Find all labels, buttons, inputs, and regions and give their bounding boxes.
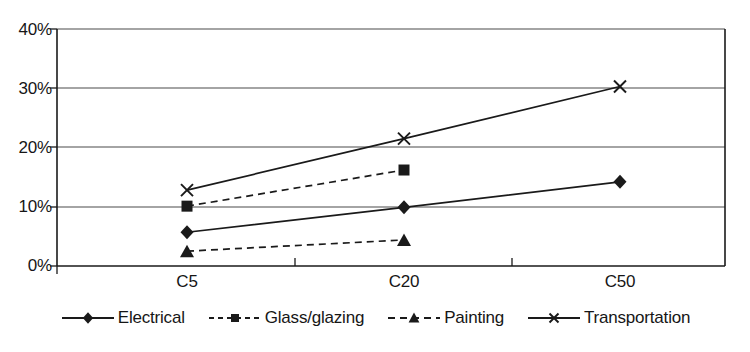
chart-legend: Electrical Glass/glazing Painting Transp… bbox=[0, 308, 750, 328]
legend-swatch-triangle-icon bbox=[386, 309, 442, 327]
legend-item-glass-glazing[interactable]: Glass/glazing bbox=[207, 308, 364, 328]
data-point-marker-cross bbox=[181, 184, 193, 196]
data-point-marker-diamond bbox=[398, 200, 411, 214]
legend-item-electrical[interactable]: Electrical bbox=[60, 308, 185, 328]
legend-swatch-square-icon bbox=[207, 309, 263, 327]
legend-item-transportation[interactable]: Transportation bbox=[526, 308, 690, 328]
legend-label-electrical: Electrical bbox=[118, 308, 185, 328]
series-line-painting bbox=[187, 240, 404, 251]
legend-label-glass-glazing: Glass/glazing bbox=[265, 308, 364, 328]
data-point-marker-diamond bbox=[181, 225, 194, 239]
line-chart: 40% 30% 20% 10% 0% C5 C20 C50 bbox=[0, 0, 750, 352]
legend-label-transportation: Transportation bbox=[584, 308, 690, 328]
legend-label-painting: Painting bbox=[444, 308, 504, 328]
data-point-marker-diamond bbox=[614, 175, 627, 189]
data-point-marker-square bbox=[182, 201, 193, 212]
plot-area bbox=[0, 0, 750, 352]
y-axis-ticks bbox=[50, 29, 57, 266]
data-point-marker-square bbox=[399, 165, 410, 176]
data-point-marker-cross bbox=[614, 80, 626, 92]
legend-swatch-diamond-icon bbox=[60, 309, 116, 327]
legend-item-painting[interactable]: Painting bbox=[386, 308, 504, 328]
series-line-glass-glazing bbox=[187, 170, 404, 206]
legend-swatch-cross-icon bbox=[526, 309, 582, 327]
series-markers bbox=[180, 80, 627, 257]
data-point-marker-triangle bbox=[397, 233, 411, 246]
data-point-marker-cross bbox=[398, 133, 410, 145]
